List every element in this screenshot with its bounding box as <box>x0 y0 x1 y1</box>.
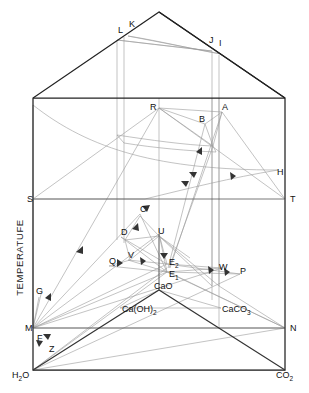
label-water-corner: H2O <box>12 370 29 382</box>
label-I: I <box>219 38 222 48</box>
label-K: K <box>129 19 135 29</box>
label-D: D <box>121 227 128 237</box>
label-R: R <box>150 102 157 112</box>
label-G: G <box>36 286 43 296</box>
label-C: C <box>140 204 147 214</box>
label-calcium-carbonate: CaCO3 <box>222 304 251 316</box>
label-F: F <box>37 333 43 343</box>
label-cao: CaO <box>154 281 173 291</box>
light-construction-lines <box>33 36 285 370</box>
label-J: J <box>209 35 214 45</box>
phase-diagram-svg: L K J I R B A H S T C D U V Q E2 E1 W P … <box>0 0 309 393</box>
label-calcium-hydroxide: Ca(OH)2 <box>122 304 157 316</box>
label-H: H <box>277 167 284 177</box>
label-E1: E1 <box>169 269 179 281</box>
label-A: A <box>222 102 228 112</box>
label-U: U <box>158 226 165 236</box>
label-V: V <box>128 250 134 260</box>
label-E2: E2 <box>169 257 179 269</box>
label-L: L <box>118 25 123 35</box>
base-ternary-edges <box>33 290 285 370</box>
direction-arrowheads <box>36 147 236 347</box>
label-Z: Z <box>49 344 55 354</box>
label-Q: Q <box>109 256 116 266</box>
label-N: N <box>290 323 297 333</box>
label-W: W <box>219 262 228 272</box>
vertical-axis-label: TEMPERATUFE <box>14 203 25 313</box>
label-T: T <box>290 194 296 204</box>
roof-right-edge <box>159 12 285 98</box>
label-P: P <box>240 266 246 276</box>
label-M: M <box>25 323 33 333</box>
label-S: S <box>27 194 33 204</box>
label-B: B <box>199 114 205 124</box>
label-carbon-dioxide-corner: CO2 <box>276 370 294 382</box>
diagram-canvas: L K J I R B A H S T C D U V Q E2 E1 W P … <box>0 0 309 393</box>
